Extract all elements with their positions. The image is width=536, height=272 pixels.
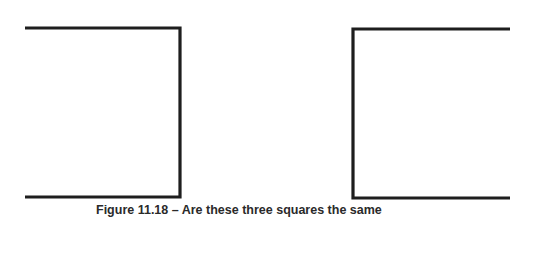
figure-caption: Figure 11.18 – Are these three squares t… — [96, 203, 396, 217]
figure-diagram — [0, 0, 536, 272]
right-open-square — [353, 29, 510, 198]
left-open-square — [25, 28, 180, 197]
